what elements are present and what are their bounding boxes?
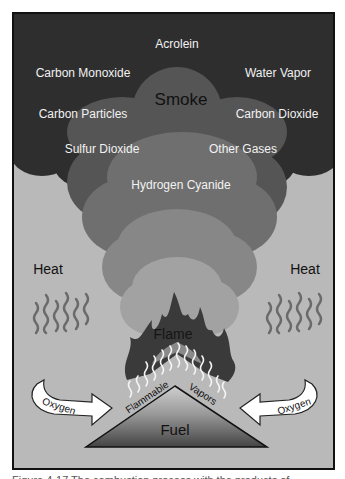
figure-caption: Figure 4-17 The combustion process with … — [12, 472, 342, 479]
fire-diagram-frame: Acrolein Carbon Monoxide Water Vapor Smo… — [12, 12, 335, 470]
label-carbon-monoxide: Carbon Monoxide — [36, 66, 131, 80]
fuel-triangle — [86, 386, 267, 447]
label-heat-right: Heat — [290, 261, 320, 277]
label-sulfur-dioxide: Sulfur Dioxide — [65, 142, 140, 156]
label-carbon-particles: Carbon Particles — [39, 107, 128, 121]
label-smoke: Smoke — [155, 90, 208, 110]
heat-waves-right — [267, 293, 321, 333]
label-heat-left: Heat — [33, 261, 63, 277]
label-hydrogen-cyanide: Hydrogen Cyanide — [131, 178, 230, 192]
label-carbon-dioxide: Carbon Dioxide — [236, 107, 319, 121]
heat-waves-left — [34, 293, 88, 333]
label-fuel: Fuel — [160, 421, 189, 438]
label-water-vapor: Water Vapor — [245, 66, 311, 80]
label-other-gases: Other Gases — [209, 142, 277, 156]
label-acrolein: Acrolein — [155, 37, 198, 51]
label-flame: Flame — [154, 326, 193, 342]
